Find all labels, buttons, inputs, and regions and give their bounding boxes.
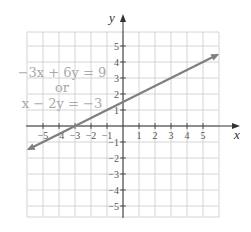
x-axis-label: x bbox=[233, 127, 240, 142]
y-tick-label: −3 bbox=[108, 169, 119, 180]
y-tick-label: −4 bbox=[108, 185, 119, 196]
x-tick-label: 5 bbox=[201, 130, 206, 141]
y-axis-label: y bbox=[107, 10, 115, 25]
x-tick-label: 4 bbox=[185, 130, 190, 141]
x-tick-label: 3 bbox=[169, 130, 174, 141]
y-tick-label: 3 bbox=[114, 73, 119, 84]
equation-line-3: x − 2y = −3 bbox=[22, 96, 102, 111]
equation-label: −3x + 6y = 9 or x − 2y = −3 bbox=[18, 65, 107, 111]
equation-line-1: −3x + 6y = 9 bbox=[18, 65, 107, 80]
y-tick-label: −1 bbox=[108, 137, 119, 148]
x-tick-label: 1 bbox=[137, 130, 142, 141]
y-tick-label: 2 bbox=[114, 89, 119, 100]
y-tick-label: 4 bbox=[114, 57, 119, 68]
equation-line-2: or bbox=[55, 80, 70, 95]
x-tick-label: −2 bbox=[86, 130, 97, 141]
y-tick-label: 5 bbox=[114, 41, 119, 52]
x-tick-label: −3 bbox=[70, 130, 81, 141]
x-tick-label: 2 bbox=[153, 130, 158, 141]
y-tick-label: −5 bbox=[108, 201, 119, 212]
axes bbox=[26, 14, 240, 218]
y-tick-label: −2 bbox=[108, 153, 119, 164]
coordinate-plane: −5−4−3−2−11234554321−1−2−3−4−5 −3x + 6y … bbox=[0, 0, 251, 232]
y-axis-arrow-icon bbox=[120, 14, 126, 22]
